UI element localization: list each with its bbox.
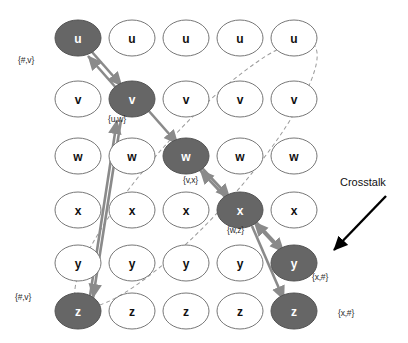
node-label: y [183, 257, 190, 271]
graph-node-w-c2-r3[interactable]: w [109, 138, 155, 174]
graph-node-u-c1-r1[interactable]: u [55, 20, 101, 56]
node-label: x [237, 204, 244, 218]
node-label: w [72, 150, 83, 164]
node-label: z [75, 305, 81, 319]
node-label: v [237, 93, 244, 107]
graph-node-v-c3-r2[interactable]: v [163, 81, 209, 117]
edge-label-lbl-u-w: {u,w} [108, 114, 126, 124]
node-label: u [74, 32, 81, 46]
node-label: w [234, 150, 245, 164]
graph-node-z-c3-r6[interactable]: z [163, 293, 209, 329]
node-label: x [183, 204, 190, 218]
edge-label-lbl-hash-v-bottom: {#,v} [15, 292, 31, 302]
node-label: y [237, 257, 244, 271]
graph-node-w-c1-r3[interactable]: w [55, 138, 101, 174]
graph-node-y-c3-r5[interactable]: y [163, 245, 209, 281]
edge-label-lbl-hash-v-top: {#,v} [18, 55, 34, 65]
graph-node-x-c1-r4[interactable]: x [55, 192, 101, 228]
graph-node-x-c4-r4[interactable]: x [217, 192, 263, 228]
graph-node-u-c3-r1[interactable]: u [163, 20, 209, 56]
node-label: u [236, 32, 243, 46]
nodes-layer: uuuuuvvvvvwwwwwxxxxxyyyyyzzzzz [0, 0, 408, 343]
graph-node-z-c2-r6[interactable]: z [109, 293, 155, 329]
node-label: w [180, 150, 191, 164]
graph-node-z-c4-r6[interactable]: z [217, 293, 263, 329]
graph-node-u-c4-r1[interactable]: u [217, 20, 263, 56]
node-label: z [291, 305, 297, 319]
node-label: v [75, 93, 82, 107]
graph-node-u-c5-r1[interactable]: u [271, 20, 317, 56]
graph-node-y-c1-r5[interactable]: y [55, 245, 101, 281]
node-label: z [183, 305, 189, 319]
graph-node-x-c2-r4[interactable]: x [109, 192, 155, 228]
node-label: u [182, 32, 189, 46]
node-label: u [290, 32, 297, 46]
node-label: z [129, 305, 135, 319]
graph-node-v-c5-r2[interactable]: v [271, 81, 317, 117]
graph-node-x-c3-r4[interactable]: x [163, 192, 209, 228]
node-label: w [288, 150, 299, 164]
node-label: v [129, 93, 136, 107]
graph-node-w-c4-r3[interactable]: w [217, 138, 263, 174]
node-label: z [237, 305, 243, 319]
graph-node-z-c5-r6[interactable]: z [271, 293, 317, 329]
node-label: x [291, 204, 298, 218]
graph-node-x-c5-r4[interactable]: x [271, 192, 317, 228]
node-label: y [129, 257, 136, 271]
node-label: v [183, 93, 190, 107]
graph-node-z-c1-r6[interactable]: z [55, 293, 101, 329]
graph-node-y-c4-r5[interactable]: y [217, 245, 263, 281]
node-label: y [291, 257, 298, 271]
diagram-canvas: uuuuuvvvvvwwwwwxxxxxyyyyyzzzzz {#,v}{u,w… [0, 0, 408, 343]
graph-node-y-c2-r5[interactable]: y [109, 245, 155, 281]
graph-node-w-c5-r3[interactable]: w [271, 138, 317, 174]
graph-node-w-c3-r3[interactable]: w [163, 138, 209, 174]
node-label: y [75, 257, 82, 271]
edge-label-lbl-w-z: {w,z} [227, 225, 244, 235]
node-label: x [129, 204, 136, 218]
node-label: x [75, 204, 82, 218]
edge-label-lbl-x-hash-upper: {x,#} [312, 272, 328, 282]
graph-node-v-c1-r2[interactable]: v [55, 81, 101, 117]
node-label: u [128, 32, 135, 46]
graph-node-y-c5-r5[interactable]: y [271, 245, 317, 281]
edge-label-lbl-x-hash-lower: {x,#} [338, 308, 354, 318]
node-label: w [126, 150, 137, 164]
node-label: v [291, 93, 298, 107]
graph-node-v-c4-r2[interactable]: v [217, 81, 263, 117]
graph-node-v-c2-r2[interactable]: v [109, 81, 155, 117]
edge-label-lbl-v-x: {v,x} [183, 175, 198, 185]
annot-crosstalk-label: Crosstalk [340, 176, 386, 188]
graph-node-u-c2-r1[interactable]: u [109, 20, 155, 56]
